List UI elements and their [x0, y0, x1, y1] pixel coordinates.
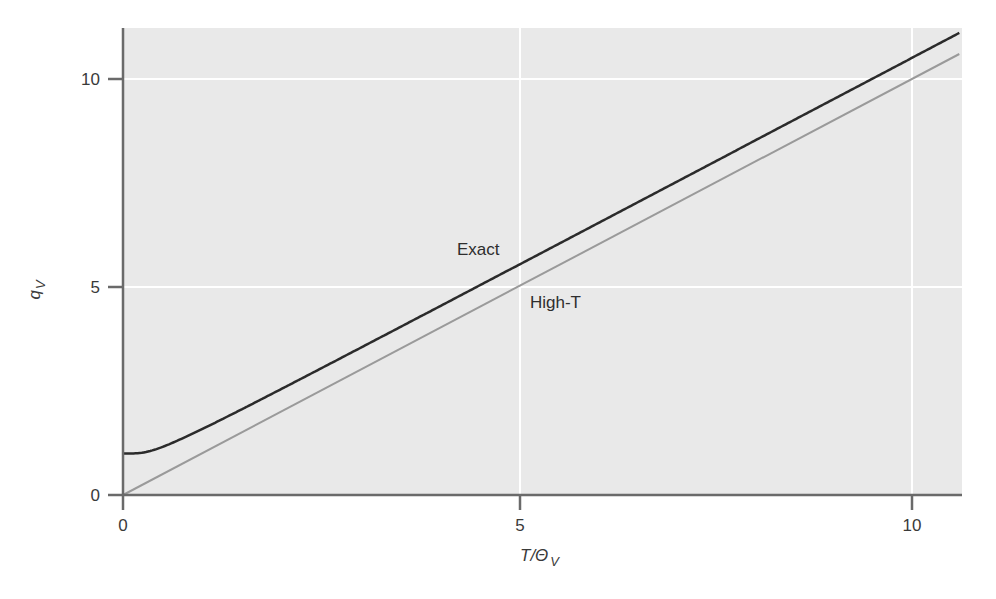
- y-axis-title-sub: V: [33, 279, 48, 289]
- y-tick-label-0: 0: [91, 486, 100, 505]
- x-axis-title-sub: V: [550, 554, 560, 569]
- exact-label: Exact: [457, 240, 500, 259]
- y-axis-title: qV: [25, 279, 48, 299]
- chart: 0 5 10 0 5 10 T/ΘV qV Exact High-T: [0, 0, 996, 599]
- y-tick-label-10: 10: [81, 70, 100, 89]
- x-tick-label-0: 0: [118, 516, 127, 535]
- x-axis-title: T/ΘV: [520, 546, 560, 569]
- y-axis-title-main: q: [25, 290, 44, 300]
- y-tick-label-5: 5: [91, 278, 100, 297]
- x-axis-title-main: T/Θ: [520, 546, 548, 565]
- high-t-label: High-T: [530, 293, 581, 312]
- x-tick-label-5: 5: [515, 516, 524, 535]
- x-tick-label-10: 10: [903, 516, 922, 535]
